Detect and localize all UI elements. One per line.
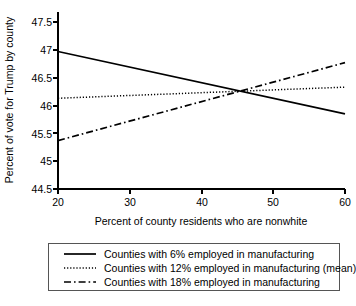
x-tick-label-60: 60 (339, 196, 351, 208)
y-tick-label-46: 46 (40, 100, 52, 112)
legend-label-12pct: Counties with 12% employed in manufactur… (104, 262, 356, 274)
x-tick-label-50: 50 (267, 196, 279, 208)
y-tick-label-47: 47 (40, 44, 52, 56)
dotted-line-sample (63, 262, 97, 274)
series-line-6pct (58, 52, 345, 114)
x-tick-label-40: 40 (196, 196, 208, 208)
legend-item-12pct: Counties with 12% employed in manufactur… (63, 261, 339, 275)
legend-item-18pct: Counties with 18% employed in manufactur… (63, 275, 339, 289)
y-tick-label-47-5: 47.5 (32, 16, 53, 28)
legend-label-18pct: Counties with 18% employed in manufactur… (104, 276, 320, 288)
legend-item-6pct: Counties with 6% employed in manufacturi… (63, 247, 339, 261)
y-tick-label-44-5: 44.5 (32, 183, 53, 195)
chart-svg: Percent of vote for Trump by county 47.5… (0, 0, 355, 232)
y-axis-title: Percent of vote for Trump by county (3, 16, 15, 183)
plot-area: Percent of vote for Trump by county 47.5… (0, 0, 355, 232)
x-tick-label-30: 30 (124, 196, 136, 208)
y-tick-label-45: 45 (40, 155, 52, 167)
solid-line-sample (63, 248, 97, 260)
dash-dot-line-sample (63, 276, 97, 288)
y-tick-label-45-5: 45.5 (32, 128, 53, 140)
series-line-12pct (58, 87, 345, 98)
legend-label-6pct: Counties with 6% employed in manufacturi… (104, 248, 314, 260)
series-line-18pct (58, 63, 345, 141)
x-tick-label-20: 20 (52, 196, 64, 208)
x-axis-title: Percent of county residents who are nonw… (95, 215, 308, 227)
chart-legend: Counties with 6% employed in manufacturi… (48, 243, 340, 291)
y-tick-label-46-5: 46.5 (32, 72, 53, 84)
